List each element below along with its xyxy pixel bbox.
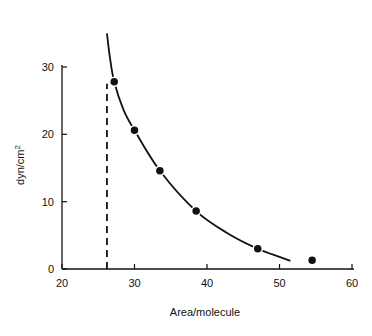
fitted-curve (107, 33, 290, 261)
y-tick-label: 20 (42, 128, 54, 140)
data-point (308, 256, 317, 265)
x-tick-label: 50 (273, 277, 285, 289)
y-axis-label: dyn/cm2 (13, 144, 26, 184)
x-tick-label: 30 (128, 277, 140, 289)
x-axis-label: Area/molecule (170, 306, 240, 318)
data-point (130, 126, 139, 135)
data-points (110, 77, 317, 264)
data-point (110, 77, 119, 86)
y-tick-label: 30 (42, 61, 54, 73)
x-tick-label: 60 (346, 277, 358, 289)
curve-layer (107, 33, 290, 269)
data-point (253, 244, 262, 253)
data-point (155, 166, 164, 175)
data-point (192, 207, 201, 216)
y-tick-label: 0 (48, 263, 54, 275)
x-tick-label: 40 (201, 277, 213, 289)
x-tick-label: 20 (56, 277, 68, 289)
y-tick-label: 10 (42, 196, 54, 208)
pressure-area-chart: 20304050600102030 Area/molecule dyn/cm2 (0, 0, 372, 336)
axes: 20304050600102030 (42, 61, 358, 289)
